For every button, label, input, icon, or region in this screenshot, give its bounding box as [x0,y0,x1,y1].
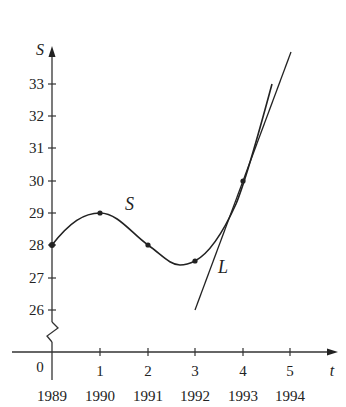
data-point [145,242,150,247]
data-points [49,178,246,263]
y-axis-label: S [36,41,44,58]
curve-s [52,84,272,265]
data-point [97,210,102,215]
data-point [49,242,55,248]
curve-s-label: S [125,194,134,214]
y-tick-label: 30 [29,173,44,189]
line-l-label: L [217,257,228,277]
data-point [192,258,197,263]
x-tick-label: 5 [286,363,294,379]
y-tick-label: 26 [29,302,45,318]
year-label: 1993 [228,388,258,404]
year-label: 1992 [180,388,210,404]
x-tick-label: 4 [239,363,247,379]
y-axis-arrow-icon [49,46,56,57]
x-tick-label: 0 [36,359,44,375]
year-label: 1989 [37,388,67,404]
x-axis-arrow-icon [327,349,338,356]
chart-area: 33 32 31 30 29 28 27 26 S 0 1 2 3 4 5 t … [0,0,346,407]
y-tick-label: 29 [29,205,44,221]
y-tick-label: 28 [29,237,44,253]
year-label: 1994 [275,388,306,404]
year-label: 1991 [133,388,163,404]
year-label: 1990 [85,388,115,404]
x-tick-label: 3 [191,363,199,379]
x-tick-label: 1 [96,363,104,379]
x-tick-label: 2 [144,363,152,379]
x-axis-label: t [330,362,335,379]
y-tick-label: 32 [29,108,44,124]
y-tick-label: 31 [29,140,44,156]
y-tick-label: 33 [29,76,44,92]
y-tick-label: 27 [29,270,45,286]
y-axis [47,56,58,380]
data-point [240,178,245,183]
